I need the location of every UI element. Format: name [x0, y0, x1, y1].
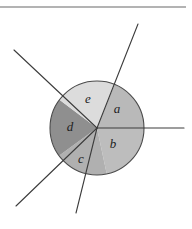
- sector-label-c: c: [78, 151, 84, 166]
- sector-label-d: d: [67, 119, 74, 134]
- figure-container: abcde: [0, 0, 192, 229]
- sector-label-e: e: [85, 91, 91, 106]
- sector-label-b: b: [110, 136, 117, 151]
- angle-diagram: abcde: [0, 0, 192, 229]
- sector-label-a: a: [114, 101, 121, 116]
